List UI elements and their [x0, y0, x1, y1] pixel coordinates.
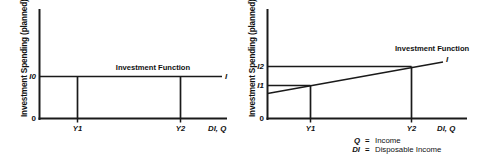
left-y-value-zero: 0 [32, 114, 37, 123]
right-x-tick-label-y1: Y1 [306, 124, 315, 133]
right-x-tick-label-y2: Y2 [407, 124, 417, 133]
left-x-axis-caption: DI, Q [208, 124, 226, 133]
left-investment-function-label: Investment Function [116, 63, 191, 72]
left-x-tick-label-y2: Y2 [176, 124, 186, 133]
left-y-axis-title: Investment Spending (planned) [20, 0, 29, 117]
right-investment-function-label: Investment Function [395, 44, 470, 53]
legend-value-income: Income [375, 136, 401, 145]
right-y-value-zero: 0 [260, 114, 265, 123]
legend-key-di: DI [352, 145, 361, 154]
right-curve-label-i: I [446, 55, 449, 64]
right-y-axis-title: Investment Spending (planned) [248, 0, 257, 117]
investment-function-figure: Investment Spending (planned) I0 0 Y1 Y2… [0, 0, 479, 157]
legend: Q = Income DI = Disposable Income [352, 136, 441, 154]
left-curve-label-i: I [225, 72, 228, 81]
legend-eq-2: = [365, 145, 370, 154]
legend-key-q: Q [354, 136, 360, 145]
right-y-value-i2: I2 [257, 62, 264, 71]
legend-eq-1: = [365, 136, 370, 145]
left-chart: Investment Spending (planned) I0 0 Y1 Y2… [20, 0, 228, 133]
right-x-axis-caption: DI, Q [437, 124, 455, 133]
legend-value-disposable-income: Disposable Income [375, 145, 441, 154]
left-x-tick-label-y1: Y1 [73, 124, 82, 133]
figure-canvas: Investment Spending (planned) I0 0 Y1 Y2… [0, 0, 479, 157]
right-y-value-i1: I1 [257, 81, 264, 90]
right-chart: Investment Spending (planned) I2 I1 0 Y1… [248, 0, 470, 133]
left-y-value-i0: I0 [29, 72, 36, 81]
